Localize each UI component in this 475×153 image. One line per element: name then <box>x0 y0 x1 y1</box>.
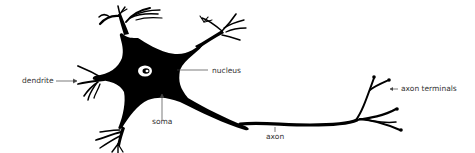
label-dendrite: dendrite <box>22 77 54 85</box>
axon <box>240 78 400 130</box>
axon-terminals-arrow-icon <box>390 88 393 91</box>
label-axon: axon <box>266 133 284 141</box>
nucleus <box>138 66 152 77</box>
label-nucleus: nucleus <box>212 67 241 75</box>
neuron-diagram: dendrite nucleus soma axon axon terminal… <box>0 0 475 153</box>
neuron-cell-body <box>93 14 249 146</box>
terminal-knobs <box>372 75 403 132</box>
label-soma: soma <box>152 118 172 126</box>
dendrite-arrow-icon <box>73 79 77 83</box>
label-axon-terminals: axon terminals <box>401 85 457 93</box>
neuron-illustration <box>0 0 475 153</box>
